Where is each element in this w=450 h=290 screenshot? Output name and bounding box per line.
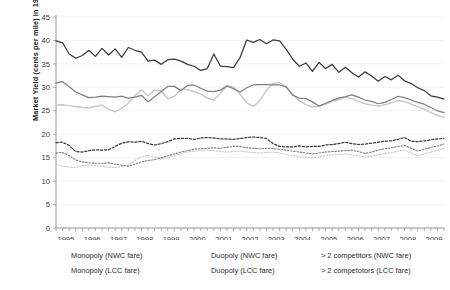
series-line	[56, 137, 444, 152]
x-tick-label: 2008	[399, 235, 416, 241]
x-tick-label: 2002	[242, 235, 259, 241]
legend-item[interactable]: Duopoly (LCC fare)	[182, 263, 278, 278]
line-chart-svg: 0510152025303540451995199619971998199920…	[0, 0, 450, 240]
x-tick-label: 1997	[110, 235, 127, 241]
legend-label: > 2 competitors (NWC fare)	[321, 251, 411, 260]
y-tick-label: 25	[42, 106, 50, 115]
chart-legend: Monopoly (NWC fare)Monopoly (LCC fare)Du…	[0, 248, 450, 286]
x-tick-label: 2009	[426, 235, 443, 241]
legend-label: Monopoly (NWC fare)	[71, 251, 142, 260]
y-tick-label: 15	[42, 153, 50, 162]
x-tick-label: 2003	[268, 235, 285, 241]
y-tick-label: 5	[46, 200, 50, 209]
series-line	[56, 83, 444, 118]
x-tick-label: 1996	[84, 235, 101, 241]
y-tick-label: 35	[42, 60, 50, 69]
legend-label: Duopoly (LCC fare)	[211, 266, 275, 275]
plot-area: 0510152025303540451995199619971998199920…	[0, 0, 450, 240]
x-tick-label: 2007	[373, 235, 390, 241]
x-tick-label: 2006	[347, 235, 364, 241]
y-tick-label: 40	[42, 36, 50, 45]
y-tick-label: 30	[42, 83, 50, 92]
x-tick-label: 1999	[163, 235, 180, 241]
x-tick-label: 2004	[294, 235, 311, 241]
x-tick-label: 2000	[189, 235, 206, 241]
y-tick-label: 45	[42, 13, 50, 22]
legend-column: > 2 competitors (NWC fare)> 2 competotor…	[292, 248, 411, 278]
legend-label: Duopoly (NWC fare)	[211, 251, 278, 260]
x-tick-label: 2005	[320, 235, 337, 241]
legend-column: Monopoly (NWC fare)Monopoly (LCC fare)	[42, 248, 142, 278]
y-tick-label: 0	[46, 224, 50, 233]
legend-label: > 2 competotors (LCC fare)	[321, 266, 411, 275]
legend-label: Monopoly (LCC fare)	[71, 266, 140, 275]
x-tick-label: 1995	[57, 235, 74, 241]
series-line	[56, 82, 444, 113]
legend-column: Duopoly (NWC fare)Duopoly (LCC fare)	[182, 248, 278, 278]
legend-item[interactable]: > 2 competitors (NWC fare)	[292, 248, 411, 263]
x-tick-label: 2001	[215, 235, 232, 241]
legend-item[interactable]: Monopoly (NWC fare)	[42, 248, 142, 263]
chart-figure: Market Yield (cents per mile) in 1995 $ …	[0, 0, 450, 290]
y-tick-label: 20	[42, 130, 50, 139]
y-tick-label: 10	[42, 177, 50, 186]
legend-item[interactable]: Duopoly (NWC fare)	[182, 248, 278, 263]
legend-item[interactable]: > 2 competotors (LCC fare)	[292, 263, 411, 278]
legend-item[interactable]: Monopoly (LCC fare)	[42, 263, 142, 278]
x-tick-label: 1998	[136, 235, 153, 241]
series-line	[56, 40, 444, 100]
